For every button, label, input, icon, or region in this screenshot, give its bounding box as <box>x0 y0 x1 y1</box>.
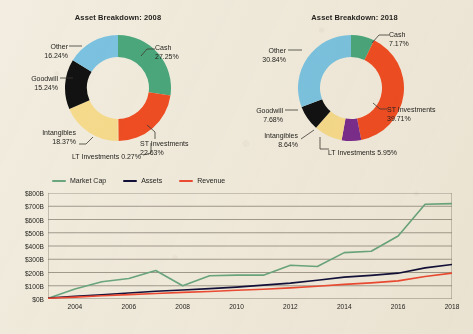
donut-slice-other[interactable] <box>298 35 351 107</box>
donut-2018-label-intangibles: Intangibles 8.64% <box>236 131 298 150</box>
donut-2018-svg <box>296 33 406 143</box>
donut-2018-label-other: Other 30.84% <box>239 46 286 65</box>
legend-swatch-assets <box>123 180 137 182</box>
donut-2018-title: Asset Breakdown: 2018 <box>236 13 473 22</box>
legend-label-market-cap: Market Cap <box>70 177 106 184</box>
y-axis-tick: $500B <box>25 229 44 236</box>
asset-breakdown-2008-panel: Asset Breakdown: 2008 Cash 27.25% ST Inv… <box>0 0 236 172</box>
donut-2008-label-other: Other 16.24% <box>24 42 68 61</box>
donut-2018-label-lt-investments: LT Investments 5.95% <box>328 148 397 157</box>
donut-2018-chart <box>296 33 406 143</box>
slice-pct-goodwill: 15.24% <box>3 83 58 92</box>
slice-label-goodwill: Goodwill <box>256 107 283 114</box>
donut-2008-label-goodwill: Goodwill 15.24% <box>3 74 58 93</box>
x-axis-tick: 2012 <box>283 303 298 310</box>
slice-label-intangibles: Intangibles <box>42 129 76 136</box>
slice-pct-other: 30.84% <box>239 55 286 64</box>
line-chart-legend: Market Cap Assets Revenue <box>52 177 225 184</box>
line-chart-plot-area <box>48 193 452 299</box>
slice-pct-lt-investments: 0.27% <box>121 153 141 160</box>
y-axis-tick: $200B <box>25 269 44 276</box>
slice-pct-intangibles: 8.64% <box>236 140 298 149</box>
slice-pct-goodwill: 7.68% <box>236 115 283 124</box>
y-axis-tick: $600B <box>25 216 44 223</box>
line-chart-svg <box>48 193 452 299</box>
x-axis-tick: 2010 <box>229 303 244 310</box>
legend-swatch-market-cap <box>52 180 66 182</box>
x-axis-tick: 2018 <box>445 303 460 310</box>
donut-2008-label-st-investments: ST Investments 22.63% <box>140 139 189 158</box>
financial-trend-line-chart: Market Cap Assets Revenue $0B$100B$200B$… <box>0 172 473 334</box>
x-axis-tick: 2004 <box>68 303 83 310</box>
slice-label-intangibles: Intangibles <box>264 132 298 139</box>
donut-slice-intangibles[interactable] <box>69 100 117 141</box>
x-axis-tick: 2006 <box>121 303 136 310</box>
legend-label-revenue: Revenue <box>197 177 225 184</box>
slice-label-lt-investments: LT Investments <box>72 153 119 160</box>
slice-pct-cash: 7.17% <box>389 39 409 48</box>
x-axis-tick: 2008 <box>175 303 190 310</box>
legend-swatch-revenue <box>179 180 193 182</box>
slice-label-cash: Cash <box>389 31 405 38</box>
slice-pct-other: 16.24% <box>24 51 68 60</box>
chart-page: Asset Breakdown: 2008 Cash 27.25% ST Inv… <box>0 0 473 334</box>
slice-pct-cash: 27.25% <box>155 52 179 61</box>
slice-label-other: Other <box>268 47 286 54</box>
y-axis-tick: $300B <box>25 256 44 263</box>
y-axis-labels: $0B$100B$200B$300B$400B$500B$600B$700B$8… <box>0 193 44 299</box>
legend-item-assets[interactable]: Assets <box>123 177 162 184</box>
x-axis-labels: 20042006200820102012201420162018 <box>48 303 452 317</box>
donut-2018-label-cash: Cash 7.17% <box>389 30 409 49</box>
legend-item-market-cap[interactable]: Market Cap <box>52 177 106 184</box>
slice-label-lt-investments: LT Investments <box>328 149 375 156</box>
donut-2008-label-lt-investments: LT Investments 0.27% <box>6 152 141 161</box>
slice-pct-st-investments: 39.71% <box>387 114 436 123</box>
series-line-market-cap[interactable] <box>48 204 452 299</box>
slice-pct-st-investments: 22.63% <box>140 148 189 157</box>
donut-slice-st-investments[interactable] <box>118 92 170 141</box>
slice-label-goodwill: Goodwill <box>31 75 58 82</box>
x-axis-tick: 2016 <box>391 303 406 310</box>
legend-item-revenue[interactable]: Revenue <box>179 177 225 184</box>
y-axis-tick: $800B <box>25 190 44 197</box>
x-axis-tick: 2014 <box>337 303 352 310</box>
slice-pct-lt-investments: 5.95% <box>377 149 397 156</box>
y-axis-tick: $0B <box>32 296 44 303</box>
slice-label-st-investments: ST Investments <box>387 106 436 113</box>
y-axis-tick: $100B <box>25 282 44 289</box>
donut-2018-label-st-investments: ST Investments 39.71% <box>387 105 436 124</box>
slice-label-other: Other <box>50 43 68 50</box>
asset-breakdown-2018-panel: Asset Breakdown: 2018 Cash 7.17% ST Inve… <box>236 0 473 172</box>
slice-pct-intangibles: 18.37% <box>8 137 76 146</box>
donut-2018-label-goodwill: Goodwill 7.68% <box>236 106 283 125</box>
slice-label-st-investments: ST Investments <box>140 140 189 147</box>
legend-label-assets: Assets <box>141 177 162 184</box>
donut-2008-title: Asset Breakdown: 2008 <box>0 13 236 22</box>
donut-2008-label-cash: Cash 27.25% <box>155 43 179 62</box>
donut-2008-label-intangibles: Intangibles 18.37% <box>8 128 76 147</box>
y-axis-tick: $400B <box>25 243 44 250</box>
y-axis-tick: $700B <box>25 203 44 210</box>
slice-label-cash: Cash <box>155 44 171 51</box>
